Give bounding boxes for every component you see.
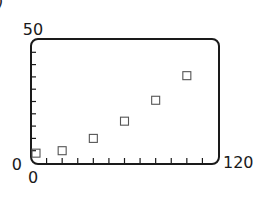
scatter-chart: ) 50 0 0 120 bbox=[0, 0, 266, 198]
data-point-marker bbox=[58, 147, 66, 155]
y-axis-min-label: 0 bbox=[12, 155, 22, 174]
data-points bbox=[32, 72, 191, 157]
data-point-marker bbox=[183, 72, 191, 80]
data-point-marker bbox=[121, 117, 129, 125]
plot-frame bbox=[31, 39, 219, 164]
chart-canvas: 50 0 0 120 bbox=[0, 0, 266, 198]
data-point-marker bbox=[152, 96, 160, 104]
x-axis-min-label: 0 bbox=[28, 168, 38, 187]
y-axis-max-label: 50 bbox=[23, 20, 43, 39]
axis-ticks bbox=[31, 52, 202, 163]
x-axis-max-label: 120 bbox=[223, 153, 254, 172]
corner-glyph: ) bbox=[0, 0, 3, 10]
data-point-marker bbox=[89, 134, 97, 142]
